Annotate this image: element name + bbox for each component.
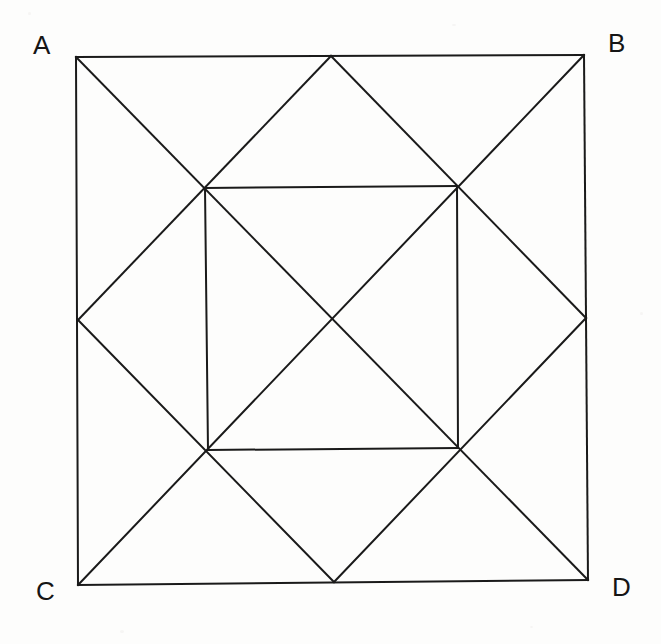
main-diagonal-b-c: [78, 55, 584, 585]
vertex-label-a: A: [33, 32, 50, 58]
geometry-figure: A B C D: [0, 0, 661, 644]
vertex-label-d: D: [612, 574, 631, 600]
geometry-canvas: [0, 0, 661, 644]
inner-square-top-edge: [205, 186, 457, 188]
vertex-label-b: B: [608, 30, 625, 56]
scan-speck: [120, 630, 124, 633]
inner-square-right-edge: [457, 186, 458, 448]
vertex-label-c: C: [36, 578, 55, 604]
main-diagonals: [76, 55, 588, 585]
scan-speck: [28, 12, 31, 15]
midpoint-diamond-lower-right-side: [334, 318, 586, 582]
scan-speck: [640, 312, 643, 315]
inner-square-bottom-edge: [208, 448, 458, 450]
scan-speck: [530, 626, 533, 628]
inner-square-left-edge: [205, 188, 208, 450]
scan-speck: [452, 24, 456, 26]
